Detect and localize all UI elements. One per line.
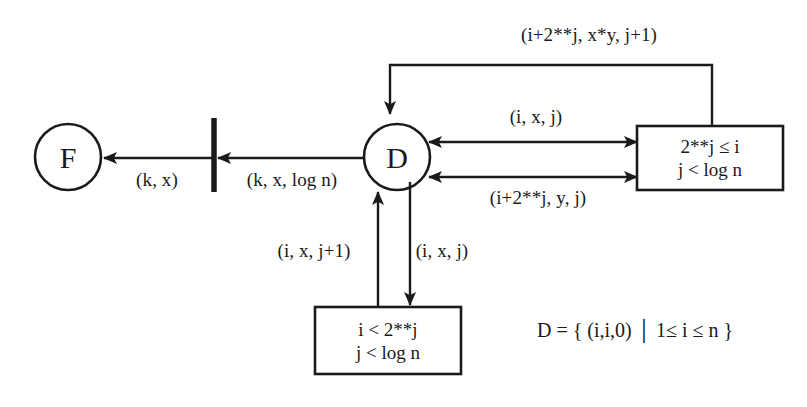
- right-condition-box-text: 2**j ≤ i j < log n: [678, 135, 742, 181]
- bottom-box-line2: j < log n: [356, 341, 420, 364]
- final-state-label: F: [60, 141, 77, 175]
- edge-label-right-lower: (i+2**j, y, j): [490, 188, 586, 208]
- edge-label-right-upper: (i, x, j): [510, 107, 563, 127]
- edge-label-final-input: (k, x): [136, 170, 178, 190]
- right-box-line1: 2**j ≤ i: [678, 135, 742, 158]
- diagram-canvas: F D 2**j ≤ i j < log n i < 2**j j < log …: [0, 0, 807, 407]
- edge-label-bottom-right: (i, x, j): [416, 241, 469, 261]
- right-box-line2: j < log n: [678, 158, 742, 181]
- bottom-condition-box-text: i < 2**j j < log n: [356, 318, 420, 364]
- edge-label-bottom-left: (i, x, j+1): [277, 241, 350, 261]
- edge-label-bar-input: (k, x, log n): [247, 170, 337, 190]
- set-definition-text: D = { (i,i,0) │ 1≤ i ≤ n }: [537, 319, 733, 342]
- edge-label-top-feedback: (i+2**j, x*y, j+1): [521, 25, 657, 45]
- data-state-label: D: [386, 141, 408, 175]
- bottom-box-line1: i < 2**j: [356, 318, 420, 341]
